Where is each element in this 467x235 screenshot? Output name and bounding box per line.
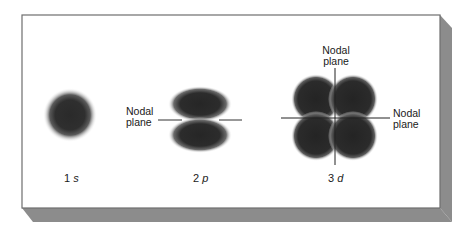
caption-1s: 1 s (64, 172, 79, 184)
nodal-plane-label-3d-top: Nodal plane (318, 45, 354, 67)
panel-shadow-bottom (22, 208, 452, 222)
subshell-letter: s (73, 172, 79, 184)
orbital-1s (43, 88, 97, 142)
caption-3d: 3 d (328, 172, 343, 184)
label-line-2: plane (393, 119, 420, 130)
shell-number: 1 (64, 172, 70, 184)
subshell-letter: p (202, 172, 208, 184)
subshell-letter: d (337, 172, 343, 184)
label-line-2: plane (126, 117, 153, 128)
label-line-2: plane (318, 56, 354, 67)
panel-shadow-right (440, 15, 452, 222)
shell-number: 2 (193, 172, 199, 184)
nodal-plane-label-2p: Nodal plane (126, 106, 153, 128)
caption-2p: 2 p (193, 172, 208, 184)
shell-number: 3 (328, 172, 334, 184)
nodal-plane-label-3d-right: Nodal plane (393, 108, 420, 130)
orbital-diagram: Nodal plane Nodal plane Nodal plane 1 s … (0, 0, 467, 235)
